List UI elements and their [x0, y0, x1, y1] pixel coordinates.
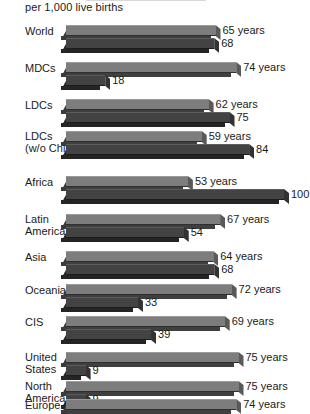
bar-front-face — [66, 38, 214, 49]
row-label-line1: North — [25, 380, 52, 392]
life-expectancy-bar — [66, 399, 236, 410]
infant-mortality-value: 100 — [291, 188, 309, 200]
row-label-europe: Europe — [25, 399, 60, 411]
row-label-line1: Latin — [25, 213, 49, 225]
life-expectancy-value: 69 years — [232, 315, 274, 327]
row-label-world: World — [25, 25, 54, 37]
bar-end-cap — [249, 144, 254, 159]
chart-subtitle: per 1,000 live births — [25, 1, 123, 13]
infant-mortality-bar — [66, 144, 249, 155]
infant-mortality-bar — [66, 75, 105, 86]
bar-front-face — [66, 99, 209, 110]
life-expectancy-value: 59 years — [209, 130, 251, 142]
infant-mortality-value: 84 — [256, 143, 268, 155]
life-expectancy-bar — [66, 62, 236, 73]
row-label-line1: LDCs — [25, 99, 53, 111]
infant-mortality-bar — [66, 189, 284, 200]
life-expectancy-value: 64 years — [220, 250, 262, 262]
bar-end-cap — [230, 112, 235, 127]
infant-mortality-value: 68 — [221, 263, 233, 275]
life-expectancy-bar — [66, 352, 239, 363]
bar-end-cap — [216, 25, 221, 40]
row-label-line1: Oceania — [25, 284, 66, 296]
row-label-asia: Asia — [25, 251, 46, 263]
row-label-line1: MDCs — [25, 62, 56, 74]
row-label-ldcs: LDCs — [25, 99, 53, 111]
bar-front-face — [66, 365, 86, 376]
life-expectancy-value: 65 years — [223, 24, 265, 36]
infant-mortality-bar — [66, 112, 230, 123]
bar-bottom-slab — [61, 155, 244, 159]
life-expectancy-value: 74 years — [243, 61, 285, 73]
bar-front-face — [66, 112, 230, 123]
row-label-africa: Africa — [25, 176, 53, 188]
infant-mortality-value: 54 — [191, 226, 203, 238]
bar-front-face — [66, 189, 284, 200]
bar-end-cap — [284, 189, 289, 204]
infant-mortality-bar — [66, 264, 214, 275]
bar-end-cap — [105, 75, 110, 90]
row-label-mdcs: MDCs — [25, 62, 56, 74]
bar-end-cap — [236, 62, 241, 77]
bar-front-face — [66, 264, 214, 275]
bar-front-face — [66, 381, 239, 392]
bar-front-face — [66, 329, 151, 340]
infant-mortality-bar — [66, 38, 214, 49]
bar-front-face — [66, 144, 249, 155]
life-expectancy-value: 72 years — [239, 283, 281, 295]
infant-mortality-bar — [66, 297, 138, 308]
bar-front-face — [66, 25, 216, 36]
bar-end-cap — [232, 284, 237, 299]
row-label-line2: States — [25, 363, 57, 375]
bar-end-cap — [214, 38, 219, 53]
bar-front-face — [66, 176, 188, 187]
life-expectancy-bar — [66, 131, 202, 142]
infant-mortality-value: 75 — [237, 111, 249, 123]
life-expectancy-value: 53 years — [195, 175, 237, 187]
bar-end-cap — [151, 329, 156, 344]
bar-front-face — [66, 214, 220, 225]
bar-front-face — [66, 316, 225, 327]
life-expectancy-value: 67 years — [227, 213, 269, 225]
life-expectancy-bar — [66, 99, 209, 110]
row-label-line1: Africa — [25, 176, 53, 188]
row-label-line1: World — [25, 25, 54, 37]
bar-bottom-slab — [61, 410, 231, 414]
life-expectancy-bar — [66, 251, 213, 262]
bar-bottom-slab — [61, 49, 209, 53]
bar-end-cap — [239, 381, 244, 396]
bar-end-cap — [225, 316, 230, 331]
bar-front-face — [66, 352, 239, 363]
row-label-latin-america: LatinAmerica — [25, 213, 65, 237]
bar-front-face — [66, 284, 232, 295]
bar-front-face — [66, 297, 138, 308]
life-expectancy-value: 75 years — [246, 380, 288, 392]
bar-end-cap — [236, 399, 241, 414]
bar-bottom-slab — [61, 123, 225, 127]
bar-bottom-slab — [61, 200, 279, 204]
infant-mortality-value: 68 — [221, 37, 233, 49]
infant-mortality-value: 9 — [93, 364, 99, 376]
life-expectancy-bar — [66, 284, 232, 295]
life-expectancy-value: 75 years — [246, 351, 288, 363]
row-label-line1: Asia — [25, 251, 46, 263]
life-expectancy-bar — [66, 381, 239, 392]
infant-mortality-value: 33 — [145, 296, 157, 308]
bar-front-face — [66, 251, 213, 262]
infant-mortality-bar — [66, 365, 86, 376]
bar-front-face — [66, 131, 202, 142]
infant-mortality-bar — [66, 227, 184, 238]
bar-end-cap — [86, 365, 91, 380]
life-expectancy-value: 62 years — [216, 98, 258, 110]
bar-end-cap — [214, 264, 219, 279]
row-label-line2: America — [25, 225, 65, 237]
row-label-line1: Europe — [25, 399, 60, 411]
bar-end-cap — [220, 214, 225, 229]
bar-end-cap — [138, 297, 143, 312]
bar-bottom-slab — [61, 275, 209, 279]
life-expectancy-bar — [66, 176, 188, 187]
life-expectancy-value: 74 years — [243, 398, 285, 410]
bar-front-face — [66, 399, 236, 410]
row-label-line1: United — [25, 351, 57, 363]
